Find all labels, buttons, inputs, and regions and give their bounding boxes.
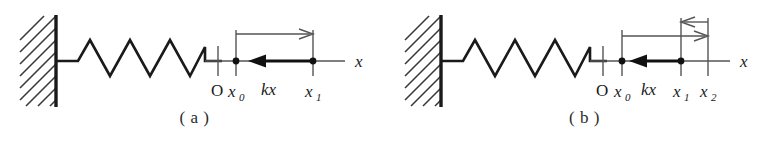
panel-a-caption: ( a ) (0, 108, 389, 128)
hatched-wall (405, 15, 441, 107)
coil-spring (441, 40, 607, 76)
coil-spring (56, 40, 222, 76)
force-label-kx: kx (641, 80, 657, 99)
marker-x2-subscript: 2 (711, 91, 717, 103)
marker-x1-subscript: 1 (684, 91, 690, 103)
marker-x1-label: x (672, 82, 681, 101)
marker-x0 (233, 30, 240, 76)
displacement-arrow-x0-x1 (236, 29, 313, 39)
marker-x1-subscript: 1 (316, 91, 322, 103)
force-arrow-kx (248, 55, 313, 68)
marker-x0-dot (233, 58, 240, 65)
displacement-arrow-x2-x1 (681, 17, 708, 27)
displacement-arrow-x0-x1 (622, 31, 708, 41)
panel-b-caption: ( b ) (390, 108, 779, 128)
force-arrowhead-left (248, 55, 266, 68)
marker-x0-subscript: 0 (239, 91, 245, 103)
marker-x1 (678, 18, 685, 76)
marker-x2-label: x (699, 82, 708, 101)
origin-label: O (596, 81, 608, 100)
axis-label-x: x (739, 52, 748, 71)
marker-x0-dot (619, 58, 626, 65)
panel-b: x O x 0 x 1 x 2 (390, 0, 779, 147)
marker-x0-label: x (227, 82, 236, 101)
axis-label-x: x (354, 52, 363, 71)
marker-x1-label: x (304, 82, 313, 101)
hatched-wall (20, 15, 56, 107)
force-arrow-kx (629, 55, 681, 68)
panel-a: x O x 0 x 1 (0, 0, 389, 147)
marker-x1 (310, 30, 317, 76)
marker-x0-label: x (613, 82, 622, 101)
marker-x0-subscript: 0 (625, 91, 631, 103)
spring-force-figure: x O x 0 x 1 (0, 0, 779, 147)
marker-x0 (619, 30, 626, 76)
force-label-kx: kx (261, 80, 277, 99)
origin-label: O (211, 81, 223, 100)
force-arrowhead-left (629, 55, 647, 68)
